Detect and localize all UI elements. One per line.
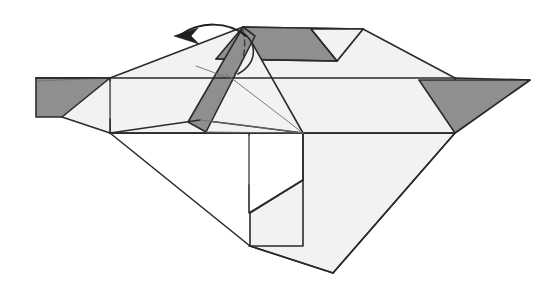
lower-left-long-diagonal (110, 133, 250, 246)
lower-body-facet (110, 133, 455, 273)
origami-diagram-root: Origami folding step diagram Partially f… (0, 0, 557, 289)
origami-figure: Origami folding step diagram Partially f… (0, 0, 557, 289)
